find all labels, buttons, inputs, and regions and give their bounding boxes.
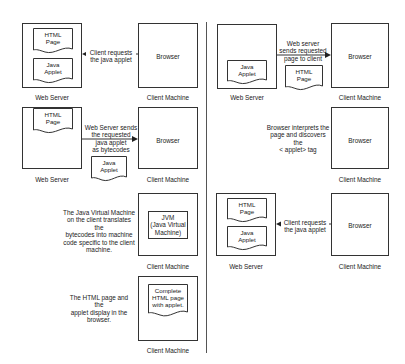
- client-machine-box: Browser: [331, 193, 389, 256]
- client-machine-label: Client Machine: [331, 263, 389, 270]
- web-server-box: HTML Page: [22, 107, 82, 169]
- column-divider: [206, 22, 207, 353]
- browser-label: Browser: [139, 53, 197, 60]
- complete-html-page-document: Complete HTML page with applet.: [148, 284, 188, 319]
- arrow-caption: Client requests the java applet: [86, 49, 136, 64]
- client-machine-box: Browser: [331, 23, 389, 88]
- web-server-label: Web Server: [216, 263, 276, 270]
- web-server-box: Java Applet: [217, 24, 277, 89]
- html-page-document: HTML Page: [285, 65, 323, 92]
- client-machine-box: Complete HTML page with applet.: [138, 276, 198, 341]
- browser-label: Browser: [332, 137, 388, 144]
- jvm-box: JVM (Java Virtual Machine): [148, 211, 188, 239]
- client-machine-label: Client Machine: [331, 176, 389, 183]
- java-applet-document: Java Applet: [91, 156, 127, 183]
- web-server-box: HTML Page Java Applet: [22, 23, 82, 88]
- java-applet-document: Java Applet: [227, 60, 267, 86]
- client-machine-label: Client Machine: [331, 94, 389, 101]
- browser-label: Browser: [332, 222, 388, 229]
- client-machine-label: Client Machine: [138, 176, 198, 183]
- client-machine-box: Browser: [138, 23, 198, 88]
- web-server-label: Web Server: [22, 176, 82, 183]
- browser-label: Browser: [332, 53, 388, 60]
- html-page-document: HTML Page: [33, 108, 73, 135]
- client-machine-label: Client Machine: [138, 94, 198, 101]
- java-applet-document: Java Applet: [227, 226, 267, 252]
- web-server-box: HTML Page Java Applet: [216, 193, 276, 256]
- html-page-document: HTML Page: [33, 28, 73, 55]
- step-description: The HTML page and the applet display in …: [66, 294, 132, 324]
- html-page-document: HTML Page: [227, 198, 267, 224]
- browser-label: Browser: [139, 137, 197, 144]
- web-server-label: Web Server: [22, 94, 82, 101]
- java-applet-document: Java Applet: [33, 58, 73, 85]
- arrow-caption: Web Server sends the requested java appl…: [84, 124, 138, 154]
- client-machine-box: Browser: [138, 107, 198, 169]
- arrow-caption: Client requests the java applet: [281, 219, 329, 234]
- step-description: The Java Virtual Machine on the client t…: [62, 209, 136, 253]
- arrow-caption: Web server sends requested page to clien…: [276, 40, 330, 62]
- step-description: Browser interprets the page and discover…: [266, 124, 330, 154]
- client-machine-label: Client Machine: [138, 347, 198, 354]
- web-server-label: Web Server: [217, 94, 277, 101]
- client-machine-box: Browser: [331, 107, 389, 169]
- jvm-label: JVM (Java Virtual Machine): [149, 214, 187, 236]
- client-machine-label: Client Machine: [138, 263, 198, 270]
- client-machine-box: JVM (Java Virtual Machine): [138, 193, 198, 256]
